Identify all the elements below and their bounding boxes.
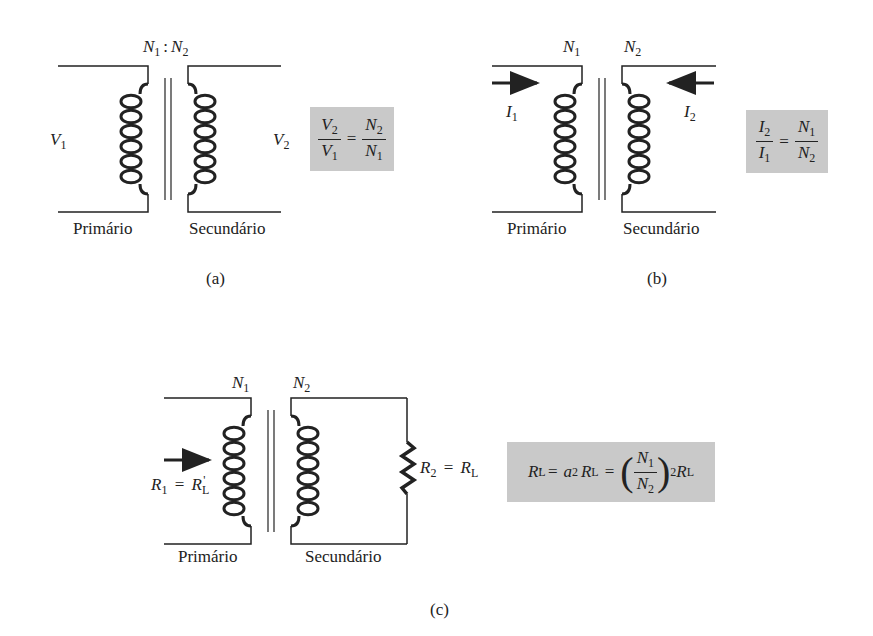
secondary-coil-loop — [629, 140, 649, 153]
primary-coil-loop — [121, 110, 141, 123]
current-ratio-formula: I2I1 = N1N2 — [746, 110, 828, 173]
voltage-ratio-formula: V2V1 = N2N1 — [310, 107, 394, 171]
turns-n1-label-b: N1 — [563, 38, 580, 58]
secondary-coil-lead — [188, 84, 196, 94]
secondary-coil-loop — [298, 457, 318, 470]
primary-coil-loop — [555, 140, 575, 153]
secondary-wire-top — [622, 66, 716, 84]
primary-coil-loop — [224, 442, 244, 455]
primary-coil-loop — [224, 427, 244, 440]
primary-coil-loop — [121, 125, 141, 138]
secondary-coil-lead — [188, 184, 196, 194]
secondary-wire-top — [188, 66, 281, 84]
voltage-v1-label: V1 — [50, 131, 66, 151]
secondary-coil-loop — [629, 110, 649, 123]
primary-coil-lead — [140, 184, 148, 194]
primary-coil-loop — [555, 110, 575, 123]
reflected-resistance-label: R1 = RL' — [151, 474, 205, 496]
primary-wire-top — [164, 398, 251, 416]
transformer-b — [492, 66, 716, 212]
secondary-coil-loop — [195, 95, 215, 108]
caption-c: (c) — [430, 601, 449, 618]
primary-coil-loop — [555, 155, 575, 168]
secondary-coil-loop — [195, 110, 215, 123]
secondary-coil-loop — [195, 125, 215, 138]
secondary-coil-loop — [298, 442, 318, 455]
primary-wire-top — [492, 66, 582, 84]
reflected-impedance-formula: RL' = a2 RL = ( N1N2 )2 RL — [507, 442, 715, 502]
primary-label-b: Primário — [507, 220, 567, 237]
secondary-coil-lead — [291, 416, 299, 426]
primary-label-c: Primário — [178, 548, 238, 565]
circuit-drawing — [0, 0, 873, 636]
transformer-a — [58, 66, 281, 212]
secondary-coil-loop — [629, 125, 649, 138]
current-i1-label: I1 — [506, 103, 518, 123]
secondary-coil-lead — [622, 84, 630, 94]
transformer-c — [164, 398, 407, 544]
secondary-label-b: Secundário — [623, 220, 699, 237]
turns-n2-label-c: N2 — [293, 374, 310, 394]
primary-label-a: Primário — [73, 220, 133, 237]
primary-coil-loop — [224, 502, 244, 515]
primary-wire-bottom — [58, 194, 148, 212]
secondary-wire-bottom — [188, 194, 281, 212]
secondary-coil-loop — [629, 170, 649, 183]
secondary-coil-loop — [195, 140, 215, 153]
current-i2-label: I2 — [684, 103, 696, 123]
primary-coil-loop — [121, 155, 141, 168]
caption-b: (b) — [647, 270, 667, 287]
secondary-coil-loop — [195, 170, 215, 183]
secondary-coil-loop — [629, 155, 649, 168]
secondary-coil-loop — [298, 427, 318, 440]
secondary-coil-loop — [195, 155, 215, 168]
resistor-zigzag — [402, 442, 414, 494]
primary-coil-lead — [243, 416, 251, 426]
secondary-coil-lead — [622, 184, 630, 194]
primary-coil-loop — [224, 472, 244, 485]
secondary-wire-top — [291, 398, 407, 416]
primary-coil-loop — [224, 487, 244, 500]
turns-n2-label-b: N2 — [624, 38, 641, 58]
turns-n1-label-c: N1 — [232, 374, 249, 394]
primary-wire-bottom — [492, 194, 582, 212]
secondary-coil-lead — [291, 516, 299, 526]
secondary-label-c: Secundário — [305, 548, 381, 565]
voltage-v2-label: V2 — [273, 131, 289, 151]
primary-coil-lead — [574, 184, 582, 194]
secondary-coil-loop — [298, 472, 318, 485]
secondary-coil-loop — [629, 95, 649, 108]
caption-a: (a) — [206, 270, 225, 287]
primary-wire-top — [58, 66, 148, 84]
turns-ratio-label: N1:N2 — [143, 38, 188, 58]
secondary-coil-loop — [298, 502, 318, 515]
load-resistance-label: R2 = RL — [420, 459, 478, 479]
secondary-wire-bottom — [291, 526, 407, 544]
primary-coil-lead — [243, 516, 251, 526]
primary-coil-loop — [224, 457, 244, 470]
primary-wire-bottom — [164, 526, 251, 544]
primary-coil-loop — [555, 95, 575, 108]
primary-coil-lead — [140, 84, 148, 94]
primary-coil-loop — [555, 125, 575, 138]
secondary-wire-bottom — [622, 194, 716, 212]
primary-coil-loop — [555, 170, 575, 183]
primary-coil-loop — [121, 170, 141, 183]
primary-coil-lead — [574, 84, 582, 94]
primary-coil-loop — [121, 140, 141, 153]
primary-coil-loop — [121, 95, 141, 108]
secondary-coil-loop — [298, 487, 318, 500]
secondary-label-a: Secundário — [189, 220, 265, 237]
